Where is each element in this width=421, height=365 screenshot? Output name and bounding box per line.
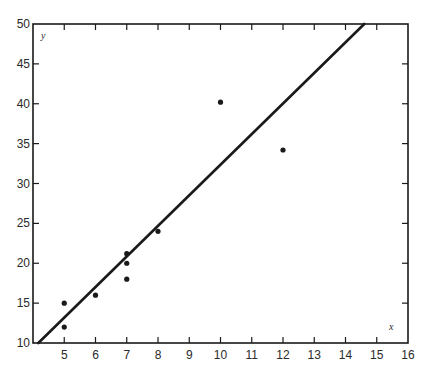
x-tick-label: 11 (246, 348, 259, 362)
y-tick-label: 15 (17, 296, 31, 310)
x-tick-label: 7 (123, 348, 130, 362)
data-point (218, 100, 223, 105)
data-point (124, 261, 129, 266)
scatter-plot: 5678910111213141516101520253035404550 y … (0, 0, 421, 365)
regression-line (38, 24, 364, 343)
data-point (93, 293, 98, 298)
x-tick-label: 5 (61, 348, 68, 362)
y-tick-label: 45 (17, 57, 31, 71)
plot-frame (33, 24, 408, 343)
y-tick-label: 25 (17, 216, 31, 230)
x-axis-label: x (388, 321, 394, 332)
x-tick-label: 15 (370, 348, 384, 362)
data-point (280, 147, 285, 152)
y-tick-label: 40 (17, 97, 31, 111)
y-tick-label: 30 (17, 177, 31, 191)
x-tick-label: 6 (92, 348, 99, 362)
x-tick-label: 8 (155, 348, 162, 362)
data-point (124, 277, 129, 282)
x-tick-label: 16 (401, 348, 415, 362)
x-tick-label: 9 (186, 348, 193, 362)
y-tick-label: 10 (17, 336, 31, 350)
data-point (62, 324, 67, 329)
data-point (124, 251, 129, 256)
axis-tick-labels: 5678910111213141516101520253035404550 (17, 17, 415, 362)
data-point (62, 301, 67, 306)
x-tick-label: 13 (308, 348, 322, 362)
y-tick-label: 20 (17, 256, 31, 270)
x-tick-label: 14 (339, 348, 353, 362)
y-tick-label: 50 (17, 17, 31, 31)
x-tick-label: 12 (276, 348, 290, 362)
data-point (155, 229, 160, 234)
x-tick-label: 10 (214, 348, 228, 362)
axis-ticks (33, 24, 408, 343)
y-tick-label: 35 (17, 137, 31, 151)
plot-border (33, 24, 408, 343)
y-axis-label: y (40, 30, 46, 41)
